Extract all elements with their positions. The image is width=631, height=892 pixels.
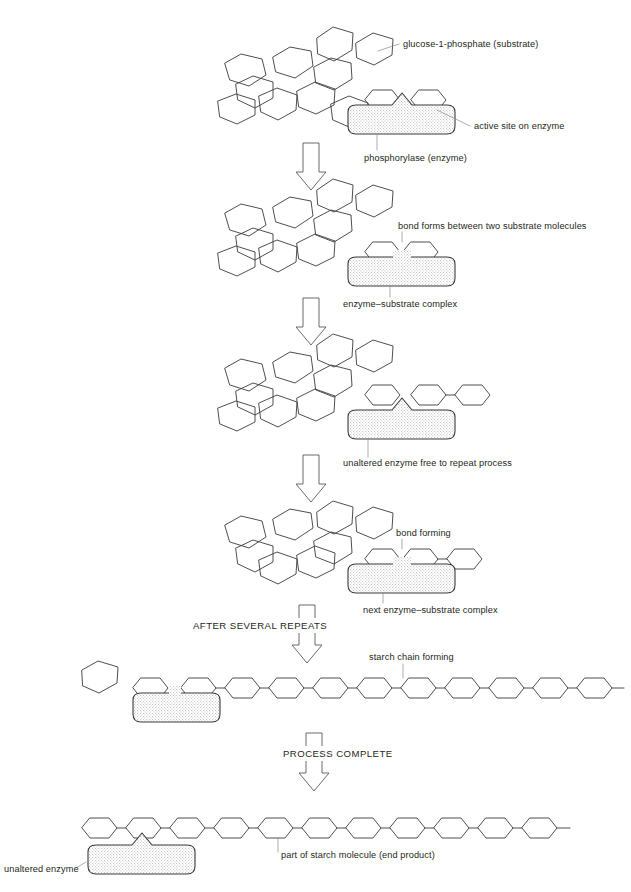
substrate-hexagon [273, 197, 313, 228]
substrate-hexagon [218, 401, 255, 431]
stage-4-group: bond forming next enzyme–substrate compl… [225, 501, 498, 615]
substrate-hexagon [82, 661, 118, 693]
enzyme-action-diagram: glucose-1-phosphate (substrate) active s… [0, 0, 631, 892]
chain-hexagon [522, 818, 557, 838]
chain-hexagon [269, 678, 304, 698]
substrate-hexagon [317, 501, 353, 534]
enzyme-shape [348, 564, 455, 593]
process-arrow-top [299, 605, 315, 618]
substrate-hexagon [356, 33, 393, 65]
label-bond-forming: bond forming [396, 528, 451, 538]
chain-hexagon [225, 678, 260, 698]
chain-hexagon [302, 818, 337, 838]
substrate-hexagon [273, 47, 313, 78]
label-es-complex: enzyme–substrate complex [343, 299, 458, 309]
substrate-hexagon [218, 94, 255, 124]
substrate-and-chain-stage-3 [365, 385, 490, 405]
substrate-hexagon [317, 334, 353, 367]
chain-hexagon [313, 678, 348, 698]
chain-hexagon [434, 818, 469, 838]
chain-hexagon [478, 818, 513, 838]
substrate-hexagon [259, 552, 297, 584]
chain-hexagon [401, 678, 436, 698]
substrate-hexagon [314, 365, 352, 397]
substrate-hexagon-bound [365, 385, 400, 405]
enzyme-shape [348, 93, 455, 134]
substrate-hexagon [314, 58, 352, 90]
chain-hexagon [258, 818, 293, 838]
chain-hexagon [577, 678, 612, 698]
chain-hexagon [533, 678, 568, 698]
arrow-1-group [296, 143, 326, 190]
substrate-hexagon [259, 240, 297, 272]
enzyme-shape [88, 833, 195, 874]
substrate-hexagon [259, 88, 297, 120]
label-substrate: glucose-1-phosphate (substrate) [403, 39, 538, 49]
chain-hexagon [82, 818, 117, 838]
substrate-hexagon [297, 234, 335, 266]
substrate-hexagon [356, 185, 393, 217]
label-enzyme: phosphorylase (enzyme) [364, 153, 467, 163]
starch-chain-stage-6 [82, 818, 570, 838]
enzyme-shape [133, 693, 220, 722]
label-unaltered-enzyme: unaltered enzyme [4, 864, 79, 874]
stage-2-group: bond forms between two substrate molecul… [218, 179, 587, 309]
process-arrow [296, 298, 326, 345]
active-site-occupied [169, 686, 181, 695]
label-next-es-complex: next enzyme–substrate complex [363, 605, 498, 615]
label-starch-chain: starch chain forming [369, 652, 454, 662]
substrate-hexagon [225, 54, 266, 86]
label-bond-forms: bond forms between two substrate molecul… [398, 221, 587, 231]
chain-hexagon [346, 818, 381, 838]
label-unaltered-free: unaltered enzyme free to repeat process [343, 458, 512, 468]
substrate-hexagon [297, 389, 335, 421]
label-process-complete: PROCESS COMPLETE [283, 748, 393, 759]
arrow-4-group: AFTER SEVERAL REPEATS [193, 605, 327, 663]
chain-hexagon [170, 818, 205, 838]
substrate-hexagon [297, 82, 335, 114]
process-arrow-top [306, 733, 322, 746]
active-site-occupied [393, 250, 411, 260]
stage-3-group: unaltered enzyme free to repeat process [218, 334, 512, 468]
chain-hexagon [411, 385, 446, 405]
chain-hexagon [489, 678, 524, 698]
substrate-hexagon [314, 210, 352, 242]
substrate-hexagon [356, 507, 393, 539]
chain-hexagon [214, 818, 249, 838]
label-end-product: part of starch molecule (end product) [281, 850, 435, 860]
process-arrow [296, 455, 326, 502]
enzyme-shape [348, 257, 455, 286]
process-arrow-bottom [292, 633, 322, 663]
substrate-hexagon [259, 395, 297, 427]
substrate-hexagon [218, 246, 255, 276]
arrow-3-group [296, 455, 326, 502]
process-arrow [296, 143, 326, 190]
stage-1-group: glucose-1-phosphate (substrate) active s… [218, 27, 564, 163]
chain-hexagon [390, 818, 425, 838]
substrate-hexagon [317, 179, 353, 212]
substrate-hexagon [273, 352, 313, 383]
label-active-site: active site on enzyme [474, 121, 564, 131]
substrate-hexagon [317, 27, 353, 61]
stage-5-group: starch chain forming [82, 652, 624, 722]
diagram-canvas: glucose-1-phosphate (substrate) active s… [0, 0, 631, 892]
leader-line-substrate [378, 44, 399, 51]
substrate-hexagon [356, 340, 393, 372]
substrate-hexagon [273, 509, 313, 540]
arrow-2-group [296, 298, 326, 345]
chain-hexagon [445, 678, 480, 698]
chain-hexagon [455, 385, 490, 405]
arrow-5-group: PROCESS COMPLETE [283, 733, 393, 791]
label-after-repeats: AFTER SEVERAL REPEATS [193, 620, 327, 631]
process-arrow-bottom [299, 761, 329, 791]
stage-6-group: part of starch molecule (end product) un… [4, 818, 570, 874]
active-site-occupied [393, 557, 411, 567]
chain-hexagon [357, 678, 392, 698]
